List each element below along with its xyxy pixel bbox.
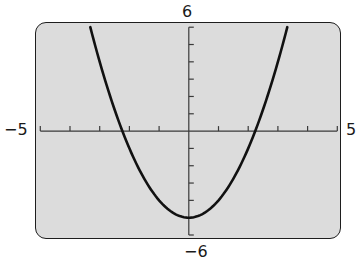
ymin-label: −6 [184,244,208,260]
axes [40,27,337,235]
xmin-label: −5 [4,122,28,138]
ymax-label: 6 [182,4,192,20]
xmax-label: 5 [346,122,356,138]
